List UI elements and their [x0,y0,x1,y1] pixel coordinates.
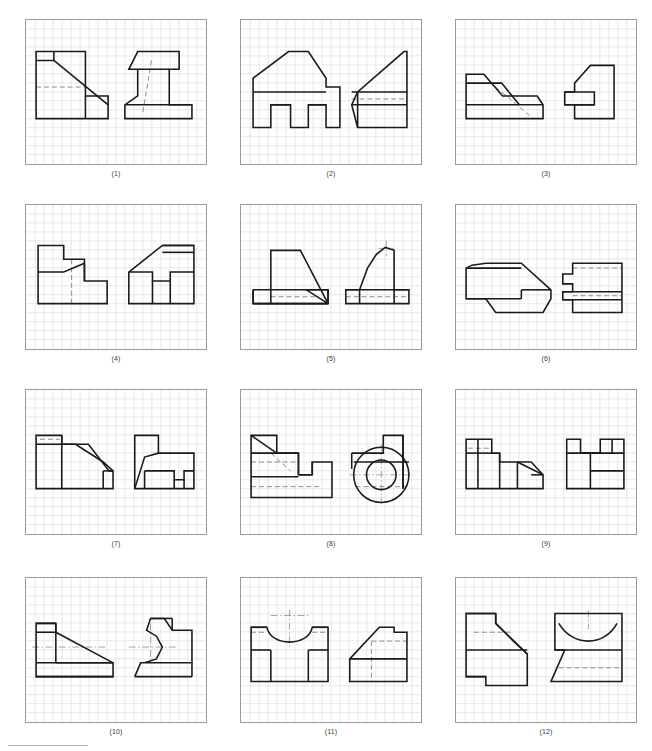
exercise-cell: (4) [25,204,207,363]
graph-paper-grid [26,390,206,534]
exercise-cell: (11) [240,577,422,736]
drawing-panel[interactable] [455,389,637,535]
orthographic-drawing [456,205,636,349]
panel-caption: (2) [240,169,422,178]
drawing-panel[interactable] [455,577,637,723]
exercise-cell: (9) [455,389,637,548]
side-view [352,52,407,128]
orthographic-drawing [26,390,206,534]
graph-paper-grid [26,20,206,164]
object-line [56,632,113,663]
exercise-cell: (7) [25,389,207,548]
front-view [251,435,332,497]
drawing-panel[interactable] [240,204,422,350]
object-line [517,462,543,475]
graph-paper-grid [456,390,636,534]
orthographic-drawing [26,20,206,164]
side-view [350,627,407,681]
object-line [125,52,192,119]
object-line [352,52,407,128]
object-line [251,627,328,681]
panel-caption: (3) [455,169,637,178]
exercise-cell: (6) [455,204,637,363]
drawing-panel[interactable] [240,389,422,535]
graph-paper-grid [26,578,206,722]
object-line [559,623,617,641]
panel-caption: (1) [25,169,207,178]
orthographic-drawing [456,390,636,534]
object-line [466,74,543,118]
object-line [36,52,108,119]
orthographic-drawing [241,205,421,349]
front-view [253,52,340,128]
side-view [551,611,622,682]
orthographic-drawing [241,578,421,722]
drawing-panel[interactable] [25,577,207,723]
exercise-cell: (8) [240,389,422,548]
graph-paper-grid [456,20,636,164]
panel-caption: (8) [240,539,422,548]
front-view [466,263,551,312]
orthographic-drawing [241,20,421,164]
drawing-panel[interactable] [25,389,207,535]
exercise-cell: (1) [25,19,207,178]
object-line [62,444,113,471]
front-view [251,610,328,682]
object-line [466,263,551,312]
exercise-sheet: (1)(2)(3)(4)(5)(6)(7)(8)(9)(10)(11)(12) [0,0,652,751]
graph-paper-grid [26,205,206,349]
object-line [251,435,277,453]
exercise-cell: (2) [240,19,422,178]
panel-caption: (10) [25,727,207,736]
drawing-panel[interactable] [455,204,637,350]
side-view [567,439,624,488]
side-view [125,52,192,119]
panel-caption: (12) [455,727,637,736]
panel-caption: (4) [25,354,207,363]
object-line [567,439,624,488]
drawing-panel[interactable] [240,577,422,723]
drawing-panel[interactable] [240,19,422,165]
orthographic-drawing [456,578,636,722]
panel-caption: (7) [25,539,207,548]
panel-caption: (6) [455,354,637,363]
footer-rule [8,745,88,746]
orthographic-drawing [26,205,206,349]
graph-paper-grid [456,205,636,349]
front-view [36,52,108,119]
front-view [466,439,543,488]
panel-caption: (5) [240,354,422,363]
drawing-panel[interactable] [25,204,207,350]
object-line [253,52,340,128]
orthographic-drawing [26,578,206,722]
object-line [565,92,595,105]
panel-caption: (11) [240,727,422,736]
hidden-line [143,60,152,113]
panel-caption: (9) [455,539,637,548]
object-line [346,247,409,303]
object-line [350,627,407,681]
side-view [563,263,622,312]
exercise-cell: (10) [25,577,207,736]
object-line [563,263,622,312]
object-line [129,272,194,281]
front-view [466,74,543,118]
drawing-panel[interactable] [455,19,637,165]
exercise-cell: (3) [455,19,637,178]
object-line [551,614,622,682]
drawing-panel[interactable] [25,19,207,165]
front-view [466,614,527,686]
orthographic-drawing [456,20,636,164]
orthographic-drawing [241,390,421,534]
exercise-cell: (12) [455,577,637,736]
exercise-cell: (5) [240,204,422,363]
